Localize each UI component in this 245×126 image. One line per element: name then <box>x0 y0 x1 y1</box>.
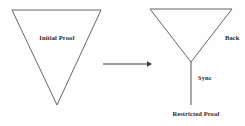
back-label: Back <box>225 34 240 42</box>
transform-arrow-group <box>103 61 152 67</box>
sync-label: Sync <box>198 74 212 82</box>
restricted-proof-triangle <box>150 9 232 62</box>
right-triangle-group <box>150 9 232 105</box>
initial-proof-label: Initial Proof <box>39 34 74 42</box>
restricted-proof-label: Restricted Proof <box>172 110 219 118</box>
diagram-canvas <box>0 0 245 126</box>
figure-diagram: Initial Proof Back Sync Restricted Proof <box>0 0 245 126</box>
left-triangle-group <box>12 10 101 105</box>
arrow-head-icon <box>147 61 152 67</box>
initial-proof-triangle <box>12 10 101 105</box>
